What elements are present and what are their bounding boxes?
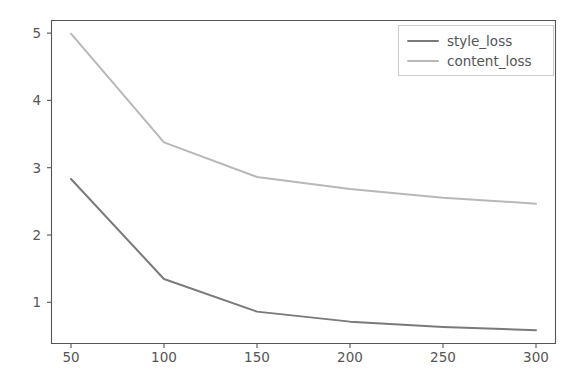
- chart-plot: 1 2 3 4 5 50 100 150 200 250 300: [0, 0, 579, 390]
- legend[interactable]: style_loss content_loss: [399, 26, 554, 76]
- y-tick-label: 1: [32, 294, 41, 310]
- x-tick-label: 50: [62, 349, 79, 365]
- legend-label: content_loss: [447, 53, 532, 69]
- x-tick-label: 200: [337, 349, 363, 365]
- x-tick-label: 300: [523, 349, 549, 365]
- figure-canvas: 1 2 3 4 5 50 100 150 200 250 300: [0, 0, 579, 390]
- x-tick-label: 150: [244, 349, 270, 365]
- x-tick-label: 250: [430, 349, 456, 365]
- legend-label: style_loss: [447, 33, 512, 49]
- y-tick-label: 3: [32, 160, 41, 176]
- y-tick-label: 5: [32, 25, 41, 41]
- x-tick-label: 100: [151, 349, 177, 365]
- y-tick-label: 2: [32, 227, 41, 243]
- y-tick-label: 4: [32, 92, 41, 108]
